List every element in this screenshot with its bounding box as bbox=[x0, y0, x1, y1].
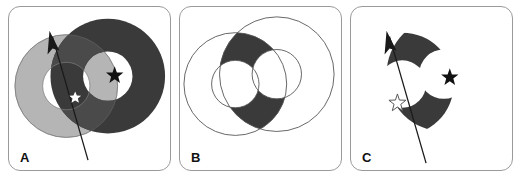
panel-b-graphic bbox=[180, 7, 341, 170]
panel-a: A bbox=[8, 6, 171, 171]
three-panel-figure: A bbox=[0, 0, 515, 181]
panel-c: C bbox=[350, 6, 513, 171]
panel-a-graphic bbox=[9, 7, 170, 170]
panel-label-c: C bbox=[362, 151, 371, 164]
panel-c-graphic bbox=[351, 7, 512, 170]
annuli-intersection-region bbox=[180, 7, 341, 170]
annuli-overlap-region bbox=[9, 7, 170, 170]
panel-label-b: B bbox=[191, 151, 200, 164]
isolated-intersection-region bbox=[351, 7, 512, 170]
panel-b: B bbox=[179, 6, 342, 171]
panel-label-a: A bbox=[20, 151, 29, 164]
